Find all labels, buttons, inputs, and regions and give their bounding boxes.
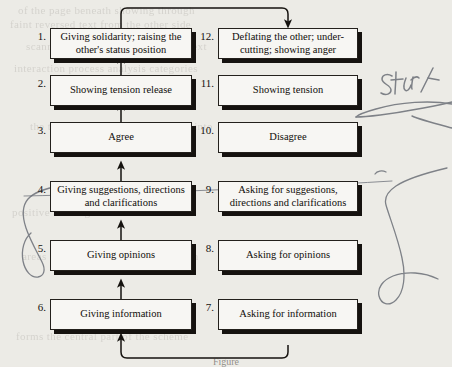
category-box-4[interactable]: Giving suggestions, directions and clari…: [50, 181, 192, 212]
category-number-8: 8.: [184, 242, 214, 254]
category-number-1: 1.: [16, 30, 46, 42]
category-number-7: 7.: [184, 301, 214, 313]
category-number-6: 6.: [16, 301, 46, 313]
category-number-2: 2.: [16, 77, 46, 89]
category-number-10: 10.: [184, 124, 214, 136]
category-box-9[interactable]: Asking for suggestions, directions and c…: [218, 181, 358, 212]
category-number-4: 4.: [16, 183, 46, 195]
category-number-5: 5.: [16, 242, 46, 254]
figure-caption: Figure: [0, 356, 452, 367]
category-box-11[interactable]: Showing tension: [218, 75, 358, 106]
category-box-12[interactable]: Deflating the other; under-cutting; show…: [218, 28, 358, 59]
category-box-7[interactable]: Asking for information: [218, 299, 358, 330]
category-number-11: 11.: [184, 77, 214, 89]
category-box-2[interactable]: Showing tension release: [50, 75, 192, 106]
category-box-3[interactable]: Agree: [50, 122, 192, 153]
category-box-6[interactable]: Giving information: [50, 299, 192, 330]
category-number-12: 12.: [184, 30, 214, 42]
category-box-5[interactable]: Giving opinions: [50, 240, 192, 271]
category-number-9: 9.: [184, 183, 214, 195]
category-number-3: 3.: [16, 124, 46, 136]
category-box-8[interactable]: Asking for opinions: [218, 240, 358, 271]
category-box-10[interactable]: Disagree: [218, 122, 358, 153]
category-box-1[interactable]: Giving solidarity; raising the other's s…: [50, 28, 192, 59]
